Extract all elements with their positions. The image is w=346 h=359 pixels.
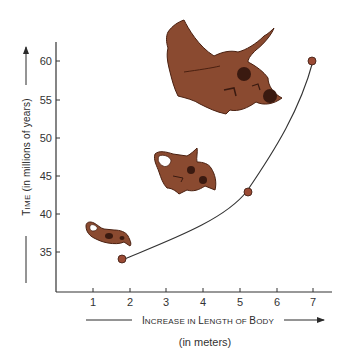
skull-triceratops-icon [167, 20, 283, 114]
svg-text:INCREASE IN LENGTH OF BODY: INCREASE IN LENGTH OF BODY [142, 315, 275, 326]
y-tick-35: 35 [40, 246, 52, 258]
svg-text:TIME (in millions of years): TIME (in millions of years) [21, 98, 32, 215]
x-tick-2: 2 [127, 296, 133, 308]
x-axis-label: INCREASE IN LENGTH OF BODY (in meters) [86, 315, 324, 348]
y-tick-60: 60 [40, 55, 52, 67]
data-point-3[interactable] [308, 57, 316, 65]
x-ticks: 1 2 3 4 5 6 7 [90, 288, 316, 308]
skull-small-icon [86, 222, 131, 246]
skull-medium-icon [154, 148, 215, 194]
y-axis-label: TIME (in millions of years) [21, 47, 32, 283]
data-point-2[interactable] [244, 188, 252, 196]
x-tick-5: 5 [237, 296, 243, 308]
x-tick-1: 1 [90, 296, 96, 308]
data-point-1[interactable] [118, 255, 126, 263]
x-tick-3: 3 [163, 296, 169, 308]
y-tick-45: 45 [40, 170, 52, 182]
x-tick-4: 4 [200, 296, 206, 308]
x-tick-7: 7 [310, 296, 316, 308]
chart-canvas: 60 55 50 45 40 35 1 2 3 4 5 6 7 INCREASE… [0, 0, 346, 359]
y-tick-55: 55 [40, 94, 52, 106]
y-ticks: 60 55 50 45 40 35 [40, 55, 60, 258]
x-tick-6: 6 [274, 296, 280, 308]
x-axis-unit: (in meters) [179, 336, 232, 348]
y-tick-40: 40 [40, 208, 52, 220]
y-tick-50: 50 [40, 132, 52, 144]
